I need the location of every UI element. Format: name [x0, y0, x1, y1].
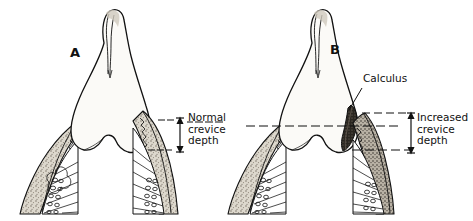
normal-crevice-depth-line-1: Normal: [188, 112, 226, 124]
panel-b-depth-arrow: [407, 113, 415, 153]
increased-crevice-depth-line-3: depth: [417, 135, 468, 147]
dental-crevice-depth-figure: A B Calculus Normal crevice depth Increa…: [0, 0, 473, 221]
panel-letter-a: A: [70, 45, 81, 60]
illustration-svg: [0, 0, 473, 221]
normal-crevice-depth-label: Normal crevice depth: [188, 112, 226, 147]
calculus-label: Calculus: [363, 73, 407, 85]
panel-b-illustration: [228, 10, 415, 214]
increased-crevice-depth-label: Increased crevice depth: [417, 112, 468, 147]
panel-a-depth-arrow: [176, 118, 184, 152]
panel-letter-b: B: [330, 42, 340, 57]
increased-crevice-depth-line-1: Increased: [417, 112, 468, 124]
normal-crevice-depth-line-3: depth: [188, 135, 226, 147]
